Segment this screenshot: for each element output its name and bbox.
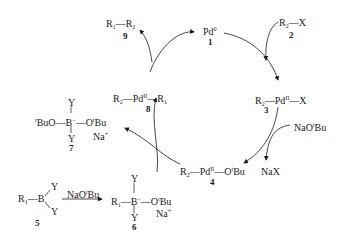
compound-5-number: 5	[35, 219, 40, 228]
compound-8-label: R2—PdII—R1	[113, 91, 167, 107]
compound-6-na: Na+	[156, 206, 171, 219]
compound-7-label: tBuO—B−—OtBu	[35, 115, 106, 128]
compound-7-y-top: Y	[68, 98, 75, 108]
compound-9-number: 9	[123, 32, 128, 41]
arrow-naotbu-in	[266, 125, 290, 160]
compound-6-y-top: Y	[131, 174, 138, 184]
compound-4-number: 4	[210, 178, 215, 187]
arrow-1-to-3	[224, 33, 278, 80]
arrow-4-to-7	[125, 128, 180, 164]
compound-2-number: 2	[289, 31, 294, 40]
arrow-to-9	[140, 30, 152, 62]
compound-9-label: R1—R2	[106, 19, 135, 32]
arrow-8-to-1	[150, 32, 194, 72]
compound-1-label: Pd0	[203, 24, 217, 37]
arrow-6-to-8	[154, 98, 158, 172]
compound-3-number: 3	[264, 106, 269, 115]
compound-6-number: 6	[132, 223, 137, 232]
compound-5-label: R1—B	[18, 194, 44, 207]
reagent-naotbu-top: NaOtBu	[294, 120, 326, 133]
compound-7-number: 7	[69, 144, 74, 153]
compound-3-label: R2—PdII—X	[255, 93, 306, 109]
reagent-naotbu-bottom: NaOtBu	[67, 187, 99, 200]
compound-5-y-top: Y	[51, 182, 58, 192]
compound-7-na: Na+	[93, 129, 108, 142]
reagent-nax: NaX	[261, 167, 280, 177]
arrow-2-in	[266, 22, 278, 60]
compound-8-number: 8	[146, 105, 151, 114]
compound-1-number: 1	[208, 38, 213, 47]
compound-5-y-bottom: Y	[51, 207, 58, 217]
